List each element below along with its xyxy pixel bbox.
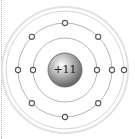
electron: [94, 67, 99, 72]
electron: [62, 114, 67, 119]
electron: [29, 34, 34, 39]
electron: [96, 34, 101, 39]
electron: [29, 101, 34, 106]
electron: [30, 67, 35, 72]
nucleus-charge-label: +11: [50, 63, 80, 76]
electron: [96, 101, 101, 106]
electron: [109, 67, 114, 72]
electron: [15, 67, 20, 72]
electron: [62, 20, 67, 25]
valence-electron: [121, 67, 126, 72]
